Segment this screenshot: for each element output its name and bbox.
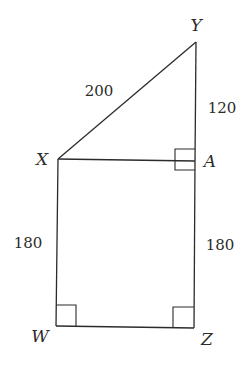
vertex-label-x: X [34,149,49,169]
vertex-label-w: W [31,326,50,346]
length-label-ya: 120 [208,99,237,117]
length-label-xw: 180 [14,234,43,252]
vertex-label-z: Z [200,329,214,349]
geometry-figure: Y X A W Z 200 120 180 180 [0,0,247,374]
segment-az [194,161,195,328]
right-angle-mark-z [173,307,194,327]
length-label-xy: 200 [85,82,114,100]
vertex-label-y: Y [190,15,203,35]
segment-xw [56,159,58,326]
length-label-az: 180 [206,236,235,254]
right-angle-mark-w [56,305,76,326]
segment-ya [195,42,196,161]
right-angle-mark-a [175,149,195,170]
segment-xy [58,42,196,159]
vertex-label-a: A [202,151,216,171]
